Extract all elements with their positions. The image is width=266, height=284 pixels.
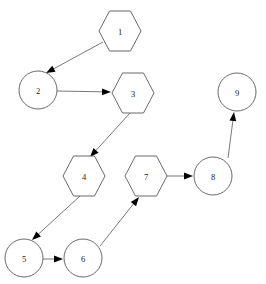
- node-label: 8: [211, 172, 215, 182]
- edge-6-7: [100, 197, 139, 246]
- edge-8-9: [228, 112, 236, 158]
- node-8[interactable]: 8: [194, 157, 232, 195]
- node-1[interactable]: 1: [99, 11, 141, 51]
- edge-line: [100, 202, 135, 246]
- node-4[interactable]: 4: [63, 156, 105, 196]
- node-label: 2: [36, 86, 40, 96]
- edge-1-2: [46, 42, 103, 73]
- node-3[interactable]: 3: [112, 73, 154, 113]
- node-7[interactable]: 7: [125, 156, 167, 196]
- edge-2-3: [57, 88, 111, 95]
- arrowhead-icon: [54, 256, 63, 263]
- diagram-canvas: 123456789: [0, 0, 266, 284]
- graph-svg: 123456789: [0, 0, 266, 284]
- node-2[interactable]: 2: [19, 71, 57, 109]
- edge-line: [95, 113, 130, 152]
- node-6[interactable]: 6: [64, 239, 102, 277]
- edge-3-4: [90, 113, 130, 157]
- edge-4-5: [32, 196, 80, 240]
- edge-7-8: [167, 173, 193, 180]
- arrowhead-icon: [131, 197, 139, 206]
- edge-5-6: [43, 256, 63, 263]
- arrowhead-icon: [184, 173, 193, 180]
- node-label: 9: [235, 88, 239, 98]
- node-label: 1: [118, 27, 122, 37]
- node-label: 6: [81, 254, 85, 264]
- node-label: 3: [131, 89, 135, 99]
- nodes-layer: 123456789: [5, 11, 256, 277]
- edge-line: [228, 119, 233, 158]
- arrowhead-icon: [46, 66, 56, 73]
- node-label: 7: [144, 172, 148, 182]
- edge-line: [52, 42, 103, 70]
- edge-line: [57, 91, 104, 92]
- arrowhead-icon: [229, 112, 236, 121]
- node-5[interactable]: 5: [5, 239, 43, 277]
- node-label: 5: [22, 254, 26, 264]
- edge-line: [37, 196, 80, 235]
- arrowhead-icon: [102, 88, 111, 95]
- node-9[interactable]: 9: [218, 73, 256, 111]
